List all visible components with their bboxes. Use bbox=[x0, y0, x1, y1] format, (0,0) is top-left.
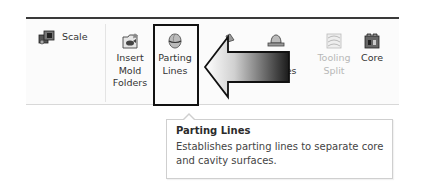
core-label: Core bbox=[361, 52, 383, 65]
tooling-split-icon bbox=[325, 32, 343, 50]
tooltip-description: Establishes parting lines to separate co… bbox=[176, 140, 388, 168]
tooling-split-button[interactable]: Tooling Split bbox=[314, 32, 354, 77]
scale-button[interactable]: Scale bbox=[38, 29, 88, 45]
core-icon bbox=[363, 32, 381, 50]
core-button[interactable]: Core bbox=[355, 32, 389, 65]
ribbon-bottom-border bbox=[26, 104, 399, 105]
tooltip: Parting Lines Establishes parting lines … bbox=[166, 119, 393, 179]
tooltip-title: Parting Lines bbox=[176, 125, 250, 136]
tooling-split-label: Tooling Split bbox=[317, 52, 350, 77]
scale-label: Scale bbox=[62, 31, 88, 43]
pointer-arrow-annotation bbox=[203, 35, 293, 101]
ribbon-separator bbox=[105, 24, 106, 102]
insert-mold-folders-button[interactable]: Insert Mold Folders bbox=[109, 32, 151, 90]
tooltip-pointer-fill bbox=[184, 115, 194, 120]
scale-icon bbox=[38, 29, 56, 45]
insert-mold-folders-label: Insert Mold Folders bbox=[113, 52, 147, 90]
insert-mold-folders-icon bbox=[121, 32, 139, 50]
parting-lines-highlight-box bbox=[153, 24, 199, 106]
